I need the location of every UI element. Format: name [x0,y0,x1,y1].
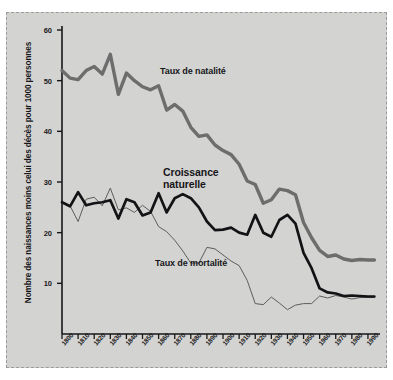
series-label-natalite: Taux de natalité [160,66,226,76]
chart-figure: Nombre des naissances moins celui des dé… [0,0,393,380]
y-tick-label: 20 [34,229,52,238]
y-tick-label: 50 [34,77,52,86]
y-tick-label: 40 [34,127,52,136]
y-axis-title: Nombre des naissances moins celui des dé… [24,23,33,323]
figure-caption [0,0,393,11]
y-tick-label: 30 [34,178,52,187]
series-label-croissance: Croissance naturelle [163,166,258,190]
series-label-mortalite: Taux de mortalité [155,258,227,268]
y-tick-label: 10 [34,279,52,288]
y-tick-label: 60 [34,26,52,35]
